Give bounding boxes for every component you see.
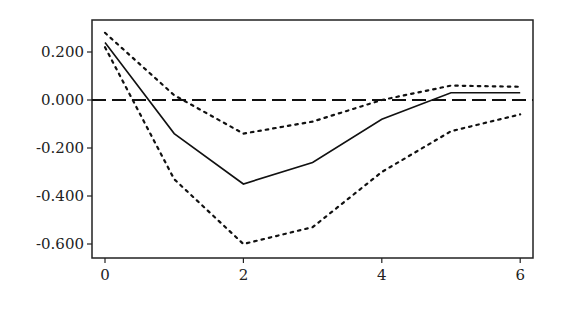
x-tick-label: 6 xyxy=(515,266,525,284)
response-line xyxy=(105,42,520,184)
y-tick-label: 0.200 xyxy=(41,43,84,61)
y-tick-label: -0.600 xyxy=(36,235,84,253)
upper-band-line xyxy=(105,33,520,134)
plot-frame xyxy=(92,20,533,258)
x-tick-label: 4 xyxy=(377,266,387,284)
lower-band-line xyxy=(105,47,520,244)
y-tick-label: -0.400 xyxy=(36,187,84,205)
x-tick-label: 2 xyxy=(239,266,249,284)
y-tick-label: -0.200 xyxy=(36,139,84,157)
x-tick-label: 0 xyxy=(100,266,110,284)
impulse-response-chart: 0.2000.000-0.200-0.400-0.6000246 xyxy=(0,0,565,315)
chart-container: 0.2000.000-0.200-0.400-0.6000246 xyxy=(0,0,565,315)
y-tick-label: 0.000 xyxy=(41,91,84,109)
